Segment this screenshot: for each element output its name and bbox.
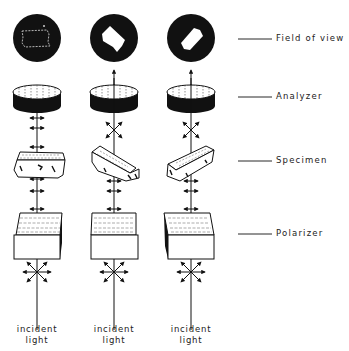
analyzer-disk — [167, 84, 215, 113]
incident-word: incident — [161, 324, 221, 335]
incident-word: incident — [7, 324, 67, 335]
light-word: light — [7, 335, 67, 346]
label-field-of-view: Field of view — [276, 33, 344, 43]
analyzer-disk — [90, 84, 138, 113]
incident-light-label-3: incident light — [161, 324, 221, 346]
leader-lines — [238, 39, 272, 234]
column-3 — [164, 14, 215, 330]
column-2 — [90, 14, 139, 330]
incident-light-label-2: incident light — [84, 324, 144, 346]
label-specimen: Specimen — [276, 155, 328, 165]
incident-word: incident — [84, 324, 144, 335]
label-polarizer: Polarizer — [276, 228, 323, 238]
field-of-view-bright — [167, 14, 215, 62]
field-of-view-bright — [90, 14, 138, 62]
field-of-view-dark — [13, 14, 61, 62]
light-word: light — [84, 335, 144, 346]
specimen-rotated — [92, 146, 139, 181]
polarizer-block — [164, 213, 214, 259]
polarizer-block — [91, 213, 138, 259]
polarized-light-diagram — [0, 0, 349, 351]
light-word: light — [161, 335, 221, 346]
column-1 — [13, 14, 65, 330]
polarizer-block — [14, 213, 62, 259]
incident-light-label-1: incident light — [7, 324, 67, 346]
label-analyzer: Analyzer — [276, 91, 323, 101]
specimen-aligned — [14, 152, 65, 178]
analyzer-disk — [13, 85, 61, 113]
